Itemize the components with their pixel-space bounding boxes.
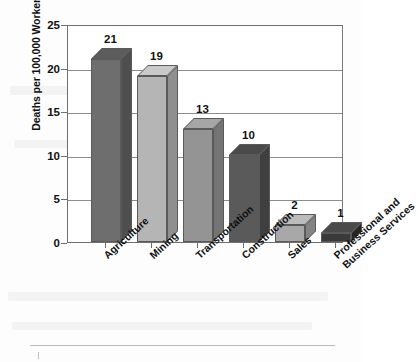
y-tick-label-15: 15	[20, 106, 60, 118]
y-tick-label-0: 0	[20, 237, 60, 249]
bar-value-label-1: 19	[150, 50, 163, 62]
bar-value-label-2: 13	[196, 103, 209, 115]
y-tick-label-5: 5	[20, 193, 60, 205]
y-tick-mark-10	[61, 156, 67, 157]
bar-2	[183, 129, 213, 242]
bar-value-label-5: 1	[337, 207, 343, 219]
bar-0	[91, 59, 121, 242]
footer-tick-mark	[38, 352, 39, 359]
y-tick-label-10: 10	[20, 150, 60, 162]
bar-side-face	[121, 48, 132, 242]
y-tick-label-20: 20	[20, 63, 60, 75]
y-tick-mark-25	[61, 25, 67, 26]
bar-front-face	[91, 59, 121, 242]
y-tick-mark-5	[61, 199, 67, 200]
footer-divider	[30, 345, 335, 346]
y-tick-mark-15	[61, 112, 67, 113]
scan-artifact	[12, 322, 312, 330]
y-tick-mark-20	[61, 69, 67, 70]
bar-side-face	[167, 65, 178, 242]
scan-artifact	[8, 292, 328, 301]
bar-front-face	[183, 129, 213, 242]
plot-area	[67, 25, 343, 243]
bar-value-label-3: 10	[242, 129, 255, 141]
bar-value-label-4: 2	[291, 199, 297, 211]
y-tick-mark-0	[61, 243, 67, 244]
bar-side-face	[213, 118, 224, 242]
bar-value-label-0: 21	[104, 33, 117, 45]
y-tick-label-25: 25	[20, 19, 60, 31]
